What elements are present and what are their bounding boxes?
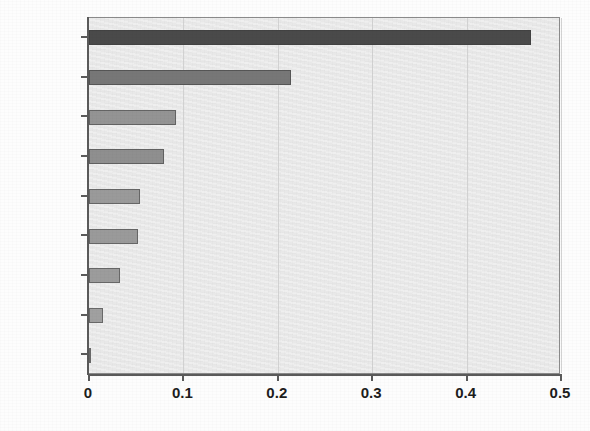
bar-max-c1	[89, 149, 164, 164]
x-tick-mark	[88, 374, 90, 381]
gridline-x-0.5	[561, 18, 562, 373]
y-tick-mark	[81, 274, 88, 276]
bar-n-2	[89, 348, 91, 363]
y-tick-mark	[81, 115, 88, 117]
x-tick-label-0-3: 0.3	[361, 384, 382, 401]
y-tick-mark	[81, 195, 88, 197]
x-tick-mark	[466, 374, 468, 381]
bars-layer	[89, 18, 559, 373]
x-tick-label-0-1: 0.1	[172, 384, 193, 401]
y-tick-mark	[81, 234, 88, 236]
x-tick-mark	[277, 374, 279, 381]
y-tick-mark	[81, 353, 88, 355]
x-tick-mark	[371, 374, 373, 381]
x-tick-mark	[560, 374, 562, 381]
x-tick-mark	[182, 374, 184, 381]
plot-area	[88, 17, 560, 374]
bar-n-1	[89, 229, 138, 244]
bar-n-el	[89, 189, 140, 204]
y-tick-mark	[81, 155, 88, 157]
bar-n-c2	[89, 268, 120, 283]
bar-max-1	[89, 30, 531, 45]
x-tick-label-0-5: 0.5	[550, 384, 571, 401]
x-tick-label-0: 0	[84, 384, 92, 401]
bar-n-c1	[89, 308, 103, 323]
x-axis-line	[88, 374, 561, 376]
x-tick-label-0-2: 0.2	[266, 384, 287, 401]
y-tick-mark	[81, 36, 88, 38]
bar-max-2	[89, 110, 176, 125]
bar-chart-figure: Max_1Max_C2Max_2Max_C1N_ELN_1N_C2N_C1N_2…	[0, 0, 590, 431]
y-tick-mark	[81, 314, 88, 316]
x-tick-label-0-4: 0.4	[455, 384, 476, 401]
bar-max-c2	[89, 70, 291, 85]
y-tick-mark	[81, 76, 88, 78]
